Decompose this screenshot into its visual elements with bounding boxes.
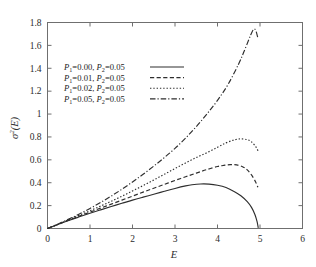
- y-axis-title: σ2(E): [8, 116, 21, 139]
- data-curve-series-0: [48, 184, 259, 229]
- x-tick-label: 0: [45, 234, 50, 244]
- y-axis-ticks: 00.20.40.60.811.21.41.61.8: [30, 18, 303, 234]
- x-tick-label: 3: [173, 234, 178, 244]
- plot-frame: [48, 23, 303, 229]
- legend-label-0: P1=0.00, P2=0.05: [63, 62, 125, 73]
- data-curve-series-2: [48, 139, 259, 229]
- y-tick-label: 1.2: [30, 86, 42, 96]
- x-tick-label: 1: [88, 234, 93, 244]
- y-tick-label: 0.2: [30, 201, 42, 211]
- figure-container: 0123456 00.20.40.60.811.21.41.61.8 P1=0.…: [0, 0, 316, 267]
- y-tick-label: 0.6: [30, 155, 42, 165]
- data-curve-series-1: [48, 165, 258, 229]
- y-tick-label: 1.4: [30, 64, 42, 74]
- legend-label-2: P1=0.02, P2=0.05: [63, 83, 125, 94]
- chart-plot: 0123456 00.20.40.60.811.21.41.61.8 P1=0.…: [0, 0, 316, 267]
- y-tick-label: 1.8: [30, 18, 42, 28]
- chart-legend: P1=0.00, P2=0.05P1=0.01, P2=0.05P1=0.02,…: [63, 62, 184, 105]
- y-tick-label: 0.4: [30, 178, 42, 188]
- y-tick-label: 1: [37, 109, 42, 119]
- x-axis-ticks: 0123456: [45, 23, 305, 244]
- y-tick-label: 0.8: [30, 132, 42, 142]
- x-axis-title: E: [170, 249, 178, 260]
- x-tick-label: 2: [130, 234, 135, 244]
- legend-label-1: P1=0.01, P2=0.05: [63, 73, 125, 84]
- x-tick-label: 6: [300, 234, 305, 244]
- legend-label-3: P1=0.05, P2=0.05: [63, 94, 125, 105]
- y-tick-label: 1.6: [30, 41, 42, 51]
- x-tick-label: 4: [215, 234, 220, 244]
- data-curve-series-3: [48, 29, 258, 228]
- x-tick-label: 5: [258, 234, 263, 244]
- data-curves: [48, 29, 259, 228]
- y-tick-label: 0: [37, 224, 42, 234]
